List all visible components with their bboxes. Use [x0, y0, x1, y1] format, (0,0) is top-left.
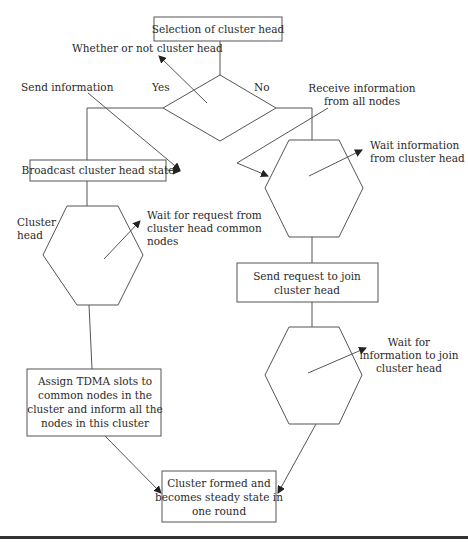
final-line-3: one round	[192, 505, 247, 517]
connector-yes-branch	[87, 108, 163, 160]
whether-label: Whether or not cluster head	[72, 42, 223, 54]
assign-line-3: cluster and inform all the	[27, 403, 162, 415]
receive-info-line-1: Receive information	[308, 82, 416, 94]
connector-no-branch	[276, 108, 312, 140]
send-info-label: Send information	[21, 81, 114, 93]
assign-line-4: nodes in this cluster	[41, 417, 150, 429]
wait-join-line-1: Wait for	[388, 336, 431, 348]
selection-label: Selection of cluster head	[152, 23, 285, 35]
wait-info-ch-line-2: from cluster head	[370, 152, 465, 164]
broadcast-label: Broadcast cluster head state	[22, 164, 175, 176]
wait-request-line-3: nodes	[147, 235, 178, 247]
bottom-rule	[0, 536, 468, 539]
wait-info-ch-line-1: Wait information	[370, 139, 460, 151]
assign-line-1: Assign TDMA slots to	[37, 375, 152, 387]
arrow-send-info	[88, 93, 180, 170]
wait-info-hexagon	[265, 140, 363, 237]
arrow-assign-final	[105, 436, 161, 493]
final-line-2: becomes steady state in	[155, 491, 283, 503]
cluster-head-line-1: Cluster	[17, 216, 57, 228]
flowchart-canvas: Selection of cluster head Broadcast clus…	[0, 0, 468, 547]
final-line-1: Cluster formed and	[167, 477, 271, 489]
no-label: No	[254, 81, 270, 93]
yes-label: Yes	[151, 81, 170, 93]
wait-request-line-1: Wait for request from	[147, 209, 262, 221]
cluster-head-hexagon	[43, 206, 143, 305]
wait-request-line-2: cluster head common	[147, 222, 262, 234]
wait-join-hexagon	[265, 327, 362, 424]
wait-join-line-2: information to join	[359, 349, 458, 361]
assign-line-2: common nodes in the	[38, 389, 152, 401]
send-request-line-2: cluster head	[274, 284, 340, 296]
arrow-hex-final	[278, 424, 316, 493]
connector-hex-assign	[89, 305, 92, 369]
cluster-head-line-2: head	[17, 229, 43, 241]
receive-info-line-2: from all nodes	[324, 95, 400, 107]
wait-join-line-3: cluster head	[376, 362, 442, 374]
send-request-box	[237, 263, 378, 302]
send-request-line-1: Send request to join	[253, 270, 361, 282]
